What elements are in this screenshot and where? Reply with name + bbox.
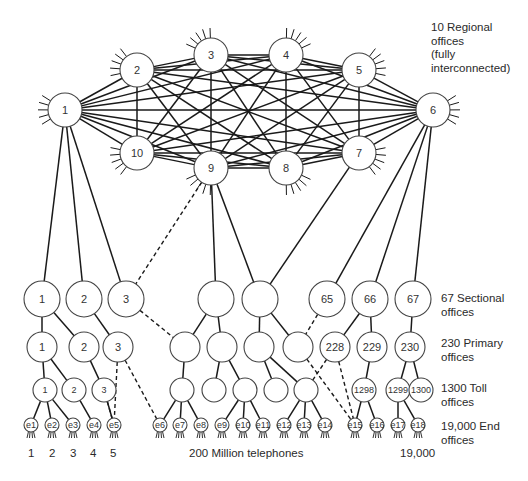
sectional-office: 2	[66, 281, 102, 317]
primary-office	[283, 332, 313, 362]
end-office: e17	[390, 418, 405, 432]
regional-trunk-line	[80, 78, 122, 101]
subscriber-line-stub	[110, 68, 120, 69]
primary-office-circle	[207, 332, 237, 362]
trunk-line	[217, 184, 254, 282]
toll-office-circle	[202, 378, 226, 402]
subscriber-line-stub	[295, 182, 300, 190]
subscriber-line-stub	[369, 167, 375, 175]
subscriber-line-stub	[376, 73, 386, 75]
end-office: e12	[276, 418, 291, 432]
trunk-line	[357, 402, 361, 419]
toll-office-label: 1300	[411, 385, 431, 395]
end-office-label: e3	[68, 420, 78, 430]
subscriber-line-stub	[299, 179, 307, 186]
toll-office: 1	[33, 378, 57, 402]
sectional-office-circle	[198, 281, 234, 317]
trunk-line	[304, 402, 305, 418]
subscriber-line-stub	[375, 61, 384, 64]
regional-office-label: 8	[283, 162, 289, 174]
trunk-line	[67, 127, 82, 281]
subscriber-line-stub	[190, 179, 198, 185]
trunk-line	[265, 361, 272, 379]
trunk-line	[47, 402, 50, 418]
primary-office: 1	[27, 332, 57, 362]
sectional-office-label: 66	[364, 293, 376, 305]
primary-office-label: 1	[39, 341, 45, 353]
end-number-2: 2	[49, 447, 55, 461]
toll-office	[202, 378, 226, 402]
toll-office-circle	[264, 378, 288, 402]
subscriber-line-stub	[112, 159, 121, 163]
sectional-office: 3	[108, 281, 144, 317]
toll-office: 1300	[409, 378, 433, 402]
regional-office: 2	[120, 53, 154, 87]
regional-office-label: 5	[356, 64, 362, 76]
end-office-label: e16	[369, 420, 384, 430]
subscriber-line-stub	[203, 29, 206, 39]
trunk-line	[415, 127, 431, 281]
trunk-line	[51, 359, 67, 380]
legend-regional: 10 Regional offices (fully interconnecte…	[431, 21, 510, 75]
sectional-office-label: 65	[321, 293, 333, 305]
trunk-line	[164, 400, 176, 419]
trunk-line	[70, 126, 120, 282]
subscriber-line-stub	[196, 33, 202, 41]
trunk-line	[344, 314, 360, 335]
subscriber-line-stub	[447, 119, 456, 124]
legend-sectional: 67 Sectional offices	[441, 292, 504, 319]
subscriber-line-stub	[299, 37, 307, 43]
end-office-label: e13	[296, 420, 311, 430]
trunk-line	[271, 313, 289, 335]
primary-office-label: 230	[401, 341, 419, 353]
sectional-office-circle	[242, 281, 278, 317]
subscriber-line-stub	[42, 96, 50, 101]
regional-office-label: 4	[283, 49, 289, 61]
subscriber-line-stub	[120, 49, 126, 57]
trunk-line	[94, 314, 109, 335]
subscriber-line-stub	[121, 167, 127, 175]
trunk-line	[218, 317, 220, 332]
regional-office-label: 9	[208, 162, 214, 174]
end-office-label: e4	[89, 420, 99, 430]
primary-office-label: 2	[81, 341, 87, 353]
toll-office: 1298	[352, 378, 376, 402]
regional-trunk-line	[80, 119, 123, 145]
primary-office: 230	[395, 332, 425, 362]
sectional-office-label: 3	[123, 293, 129, 305]
high-usage-trunk-line	[306, 314, 318, 334]
subscriber-line-stub	[203, 184, 206, 194]
end-office-label: e11	[256, 420, 270, 430]
subscriber-line-stub	[376, 68, 386, 69]
end-number-4: 4	[90, 447, 96, 461]
trunk-line	[250, 401, 259, 419]
subscriber-line-stub	[291, 184, 294, 194]
regional-office-label: 2	[134, 64, 140, 76]
primary-office: 2	[69, 332, 99, 362]
regional-office-label: 10	[131, 147, 143, 159]
subscriber-line-stub	[376, 154, 386, 155]
primary-office-label: 229	[363, 341, 381, 353]
regional-office: 9	[194, 151, 228, 185]
subscriber-line-stub	[190, 38, 198, 44]
subscriber-line-stub	[301, 44, 310, 48]
high-usage-trunk-line	[125, 360, 157, 419]
primary-office-circle	[283, 332, 313, 362]
trunk-line	[368, 401, 374, 418]
subscriber-line-stub	[291, 29, 294, 39]
trunk-line	[401, 361, 406, 378]
toll-office	[294, 378, 318, 402]
regional-office-label: 1	[62, 104, 68, 116]
subscriber-line-stub	[39, 102, 49, 105]
end-office: e2	[45, 418, 59, 432]
regional-office: 4	[269, 38, 303, 72]
end-number-1: 1	[28, 447, 34, 461]
end-office-label: e6	[155, 420, 165, 430]
high-usage-trunk-line	[107, 402, 112, 419]
toll-office: 3	[92, 378, 116, 402]
trunk-line	[183, 362, 184, 378]
end-office: e14	[317, 418, 332, 432]
end-office: e15	[347, 418, 362, 432]
end-office-label: e15	[347, 420, 362, 430]
end-office-label: e8	[196, 420, 206, 430]
